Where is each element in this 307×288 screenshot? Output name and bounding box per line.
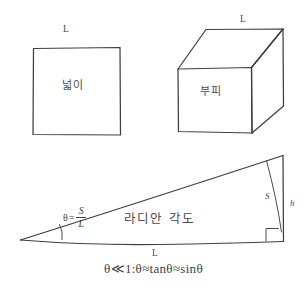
triangle-height-label: h [290,199,295,208]
square-inner-label: 넓이 [62,80,84,91]
equals-symbol: = [69,212,75,223]
radian-triangle-shape [21,156,284,245]
volume-cube-shape [178,29,284,133]
fraction-numerator: S [77,206,86,217]
diagram-canvas [0,0,307,288]
triangle-arc-label: S [265,192,270,201]
triangle-inner-label: 라디안 각도 [124,213,195,226]
fraction-denominator: L [76,218,86,229]
theta-symbol: θ [63,212,68,223]
cube-inner-label: 부피 [200,86,222,97]
cube-edge-label: L [240,15,246,25]
square-side-label: L [63,25,69,35]
diagram-root: L 넓이 L 부피 θ = S L 라디안 각도 L S h θ≪1:θ≈tan… [0,0,307,288]
triangle-base-label: L [152,249,158,259]
theta-fraction: S L [76,206,86,229]
theta-formula: θ = S L [63,206,86,229]
caption-formula: θ≪1:θ≈tanθ≈sinθ [0,261,307,277]
